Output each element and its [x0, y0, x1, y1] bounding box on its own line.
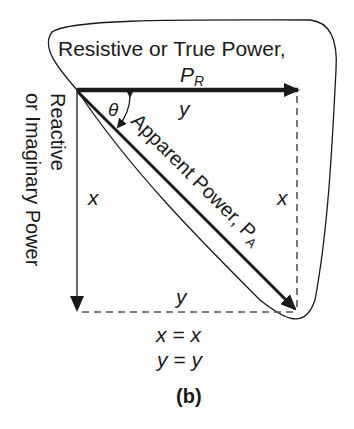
figure-caption: (b) [176, 385, 202, 407]
power-triangle-diagram: Resistive or True Power, PR y θ Apparent… [0, 0, 354, 429]
apparent-power-arrow [78, 92, 295, 309]
bottom-side-label: y [174, 285, 188, 308]
left-side-label: x [87, 186, 100, 209]
title-label: Resistive or True Power, [58, 37, 286, 60]
equation-x: x = x [155, 323, 202, 346]
angle-label: θ [108, 99, 119, 120]
reactive-label-line1: Reactive [47, 93, 69, 171]
reactive-label-line2: or Imaginary Power [22, 93, 44, 267]
right-side-label: x [276, 186, 289, 209]
equation-y: y = y [155, 348, 203, 371]
top-side-label: y [177, 97, 191, 120]
theta-angle-arc [118, 96, 130, 127]
resistive-power-symbol: PR [180, 63, 204, 89]
